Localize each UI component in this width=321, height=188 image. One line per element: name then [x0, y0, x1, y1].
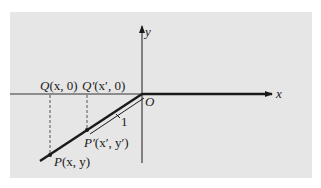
point-p-label: P(x, y) [53, 154, 90, 169]
point-q-prime-label: Q′(x′, 0) [82, 78, 125, 93]
point-p-prime-marker [85, 128, 89, 132]
y-axis-label: y [143, 24, 151, 39]
origin-label: O [145, 94, 155, 109]
unit-length-label: 1 [121, 114, 128, 129]
point-q-label: Q(x, 0) [40, 78, 78, 93]
point-p-prime-label: P′(x′, y′) [83, 135, 129, 150]
coordinate-diagram: y x O Q(x, 0) Q′(x′, 0) P′(x′, y′) P(x, … [0, 0, 321, 188]
x-axis-label: x [275, 86, 282, 101]
unit-segment [90, 98, 144, 134]
point-p-marker [48, 153, 52, 157]
